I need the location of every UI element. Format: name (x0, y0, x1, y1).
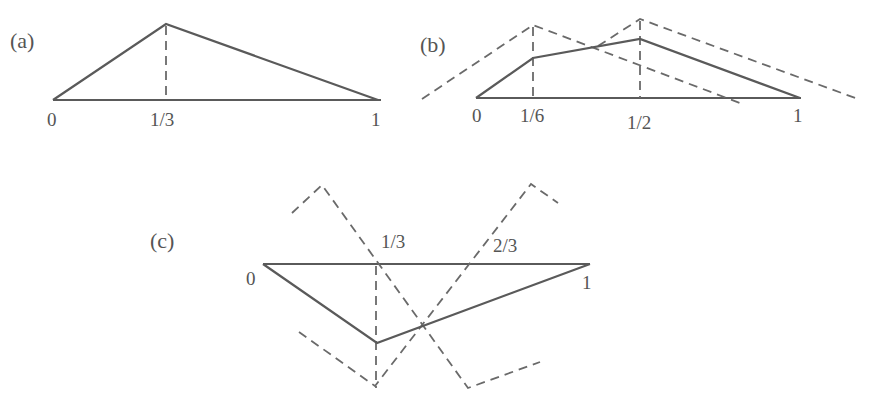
panel-c-piecewise-function (263, 264, 590, 343)
panel-c-tick-0: 0 (246, 268, 256, 289)
panel-b-tick-1-2: 1/2 (627, 112, 651, 133)
panel-a: (a) 0 1/3 1 (10, 24, 381, 130)
panel-c-tick-2-3: 2/3 (493, 235, 517, 256)
diagram-canvas: (a) 0 1/3 1 (b) 0 1/6 1/2 1 (c) (0, 0, 875, 402)
panel-c-tick-1-3: 1/3 (381, 231, 405, 252)
panel-c-basis-hat-2-3 (299, 184, 558, 386)
panel-b-label: (b) (420, 32, 446, 57)
panel-a-tick-1: 1 (371, 109, 381, 130)
panel-c-basis-hat-1-3 (292, 185, 540, 388)
panel-b-basis-hat-2 (598, 19, 858, 99)
panel-a-hat-function (53, 24, 378, 100)
panel-a-tick-0: 0 (47, 109, 57, 130)
panel-b-piecewise-function (476, 39, 800, 98)
panel-b-basis-hat-1 (422, 25, 740, 103)
panel-c: (c) 0 1/3 2/3 1 (150, 184, 592, 388)
panel-c-label: (c) (150, 228, 174, 253)
panel-a-tick-1-3: 1/3 (150, 109, 174, 130)
panel-a-label: (a) (10, 28, 34, 53)
panel-b: (b) 0 1/6 1/2 1 (420, 19, 858, 133)
panel-b-tick-1-6: 1/6 (520, 105, 544, 126)
panel-b-tick-0: 0 (472, 105, 482, 126)
panel-c-tick-1: 1 (582, 272, 592, 293)
panel-b-tick-1: 1 (793, 105, 803, 126)
